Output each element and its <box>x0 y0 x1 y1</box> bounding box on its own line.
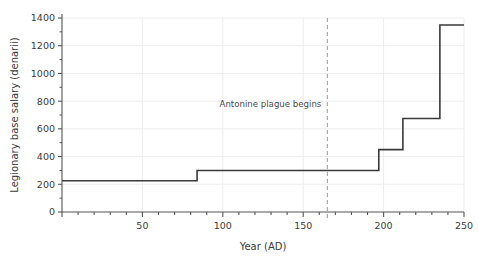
x-axis-tick-label: 50 <box>136 220 148 231</box>
y-axis-tick-label: 400 <box>37 151 55 162</box>
step-chart: Antonine plague begins 02004006008001000… <box>0 0 478 262</box>
y-axis-tick-label: 1200 <box>31 40 55 51</box>
y-axis-tick-label: 200 <box>37 179 55 190</box>
x-axis-tick-label: 200 <box>375 220 393 231</box>
y-axis-tick-label: 600 <box>37 123 55 134</box>
y-axis-tick-label: 1400 <box>31 12 55 23</box>
x-axis-title: Year (AD) <box>239 241 287 252</box>
annotation-label: Antonine plague begins <box>220 99 322 109</box>
x-axis-tick-label: 150 <box>294 220 312 231</box>
chart-figure: Antonine plague begins 02004006008001000… <box>0 0 478 262</box>
y-axis-tick-label: 800 <box>37 96 55 107</box>
chart-background <box>0 0 478 262</box>
y-axis-tick-label: 1000 <box>31 68 55 79</box>
x-axis-tick-label: 250 <box>455 220 473 231</box>
y-axis-tick-label: 0 <box>49 206 55 217</box>
x-axis-tick-label: 100 <box>214 220 232 231</box>
y-axis-title: Legionary base salary (denarii) <box>9 37 20 192</box>
